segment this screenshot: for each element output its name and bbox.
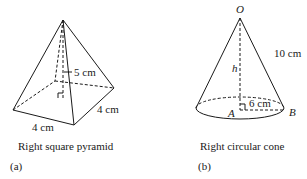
pyramid-side-right-label: 4 cm — [97, 104, 119, 115]
cone-caption: Right circular cone — [200, 141, 284, 152]
cone-center-label: A — [228, 108, 235, 119]
cone-edge-point-label: B — [289, 107, 296, 118]
pyramid-base-left-hidden — [13, 81, 55, 110]
pyramid-caption: Right square pyramid — [18, 141, 113, 152]
cone-radius-label: 6 cm — [249, 98, 271, 109]
diagram-canvas — [0, 0, 307, 179]
cone-side-right — [240, 18, 284, 108]
pyramid-side-front-label: 4 cm — [32, 122, 54, 133]
pyramid-height-label: 5 cm — [74, 67, 96, 78]
cone-apex-label: O — [236, 4, 244, 15]
cone-right-angle-mark — [240, 104, 245, 110]
cone-slant-label: 10 cm — [274, 48, 301, 59]
pyramid-edge-left — [13, 20, 63, 110]
cone-panel-label: (b) — [198, 161, 211, 172]
pyramid-edge-back-hidden — [55, 20, 63, 81]
cone-height-label: h — [232, 63, 238, 74]
pyramid-panel-label: (a) — [10, 161, 22, 172]
pyramid-base-back-hidden — [55, 81, 114, 88]
pyramid-right-angle-mark — [58, 93, 63, 98]
